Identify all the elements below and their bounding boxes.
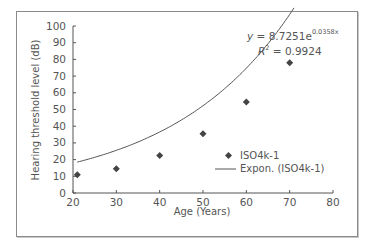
data-point-diamond-icon (286, 59, 293, 66)
x-tick-label: 40 (153, 196, 166, 208)
data-point-diamond-icon (74, 171, 81, 178)
x-tick-label: 30 (110, 196, 123, 208)
y-tick-label: 40 (53, 120, 66, 132)
data-point-diamond-icon (113, 165, 120, 172)
x-tick-label: 20 (66, 196, 79, 208)
data-point-diamond-icon (243, 98, 250, 105)
equation-label: y = 8.7251e0.0358x (246, 28, 339, 42)
legend-series-label: ISO4k-1 (240, 150, 279, 161)
x-tick-label: 80 (326, 196, 339, 208)
y-axis-title: Hearing threshold level (dB) (30, 40, 41, 181)
y-tick-label: 10 (53, 170, 66, 182)
data-point-diamond-icon (156, 152, 163, 159)
x-tick-label: 60 (240, 196, 253, 208)
y-tick-label: 90 (53, 36, 66, 48)
y-tick-label: 60 (53, 86, 66, 98)
data-point-diamond-icon (200, 130, 207, 137)
y-tick-label: 100 (46, 20, 66, 32)
y-tick-label: 20 (53, 153, 66, 165)
chart-plot: 010203040506070809010020304050607080 y =… (0, 0, 365, 243)
legend-diamond-icon (225, 152, 232, 159)
y-tick-label: 50 (53, 103, 66, 115)
x-axis-title: Age (Years) (174, 206, 231, 217)
legend-trend-label: Expon. (ISO4k-1) (240, 163, 325, 174)
legend: ISO4k-1 Expon. (ISO4k-1) (215, 150, 325, 174)
y-tick-label: 70 (53, 70, 66, 82)
y-tick-label: 80 (53, 53, 66, 65)
y-tick-label: 30 (53, 136, 66, 148)
y-tick-label: 0 (59, 187, 66, 199)
x-tick-label: 70 (283, 196, 296, 208)
r-squared-label: R2 = 0.9924 (258, 44, 322, 57)
